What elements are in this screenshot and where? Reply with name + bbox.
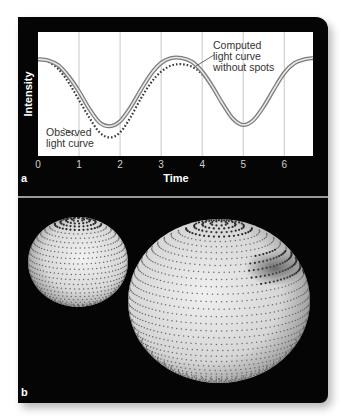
observed-curve-annotation: Observed light curve [46, 127, 94, 149]
x-tick-label: 6 [281, 159, 287, 170]
x-axis-label: Time [163, 172, 188, 184]
x-tick-label: 3 [158, 159, 164, 170]
panel-b-label: b [21, 386, 28, 398]
annotation-line: without spots [213, 62, 274, 73]
x-tick-label: 0 [35, 159, 41, 170]
y-axis-label: Intensity [22, 71, 34, 116]
starspot-region [245, 250, 305, 286]
small-star [27, 216, 129, 307]
panel-a-label: a [21, 172, 27, 184]
x-tick-label: 2 [117, 159, 123, 170]
computed-curve-annotation: Computed light curve without spots [213, 40, 274, 73]
spheres-canvas [18, 198, 328, 403]
computed-leader-line [196, 55, 214, 66]
large-star [127, 219, 311, 383]
x-tick-label: 1 [76, 159, 82, 170]
binary-star-diagram [18, 198, 328, 403]
annotation-line: light curve [46, 138, 94, 149]
x-tick-label: 5 [240, 159, 246, 170]
x-tick-label: 4 [199, 159, 205, 170]
